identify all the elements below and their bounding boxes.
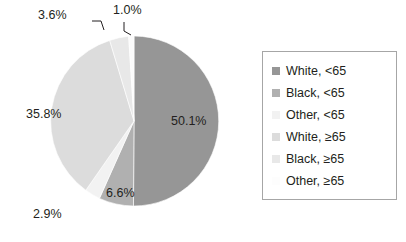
legend-swatch-other-over65 <box>272 177 280 185</box>
data-label-white-under65: 50.1% <box>171 114 206 128</box>
legend-swatch-black-over65 <box>272 155 280 163</box>
legend-label-black-over65: Black, ≥65 <box>286 153 344 166</box>
legend-label-white-over65: White, ≥65 <box>286 131 346 144</box>
pie-plot-area: 50.1% 35.8% 6.6% 2.9% 3.6% 1.0% <box>0 0 258 242</box>
legend-item-other-over65: Other, ≥65 <box>263 170 396 192</box>
legend-label-other-under65: Other, <65 <box>286 109 345 122</box>
legend-swatch-other-under65 <box>272 111 280 119</box>
legend-swatch-white-over65 <box>272 133 280 141</box>
legend-label-black-under65: Black, <65 <box>286 87 345 100</box>
leader-line-black-over65 <box>92 21 104 30</box>
data-label-black-under65: 6.6% <box>106 186 135 200</box>
legend-item-other-under65: Other, <65 <box>263 104 396 126</box>
legend-swatch-black-under65 <box>272 89 280 97</box>
pie-svg <box>0 0 258 242</box>
legend-item-white-under65: White, <65 <box>263 60 396 82</box>
legend-label-white-under65: White, <65 <box>286 65 346 78</box>
legend-swatch-white-under65 <box>272 67 280 75</box>
data-label-black-over65: 3.6% <box>38 8 67 22</box>
data-label-other-over65: 1.0% <box>113 3 142 17</box>
legend-item-white-over65: White, ≥65 <box>263 126 396 148</box>
pie-chart-figure: 50.1% 35.8% 6.6% 2.9% 3.6% 1.0% White, <… <box>0 0 406 242</box>
data-label-white-over65: 35.8% <box>26 107 61 121</box>
chart-legend: White, <65 Black, <65 Other, <65 White, … <box>262 51 397 200</box>
leader-line-other-over65 <box>124 22 131 35</box>
legend-item-black-under65: Black, <65 <box>263 82 396 104</box>
data-label-other-under65: 2.9% <box>33 207 62 221</box>
legend-label-other-over65: Other, ≥65 <box>286 175 344 188</box>
legend-item-black-over65: Black, ≥65 <box>263 148 396 170</box>
